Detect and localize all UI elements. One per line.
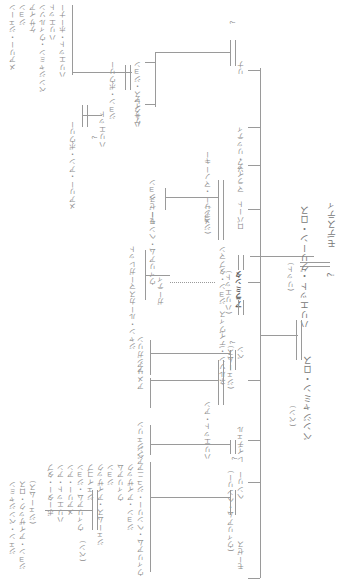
lower-name-7: ウィリアム・ジョン bbox=[78, 463, 85, 531]
linah-child-3: ジョン・ボウリー bbox=[110, 60, 117, 120]
rachel-child-2: ベン bbox=[138, 445, 145, 460]
bottom-note-4: (ベン) bbox=[80, 540, 87, 561]
ben-child-2: アメリア bbox=[138, 360, 145, 390]
linah-child-6: ? bbox=[92, 135, 99, 139]
rachel-spouse: ? bbox=[232, 456, 239, 460]
linah-child-5: メアリー・アン・ボウリー bbox=[70, 120, 77, 210]
adopted-label: ガーティ bbox=[158, 275, 165, 305]
child-rachel-label: レイチェル bbox=[238, 425, 245, 463]
lower-name-2: ジョン・アイザック bbox=[128, 463, 135, 531]
harriet-note-label: (リット) bbox=[288, 262, 295, 291]
lower-name-4: ジョン bbox=[108, 463, 115, 486]
family-tree: モデスティ ? ハリエット・グリーン・ロス (リット) ベンジャミン・ロス (ベ… bbox=[0, 0, 345, 581]
robert-child-3: ウィリアム・ヘンリー bbox=[150, 210, 157, 285]
grandchild-6: メアリー・ジェーン bbox=[10, 3, 17, 71]
bottom-note-1: (ジェームス) bbox=[30, 480, 37, 524]
lower-name-8: メアリー・アン bbox=[68, 463, 75, 516]
grandchild-1: ハリエット・ホーナー bbox=[60, 3, 67, 78]
child-linah-label: リナ bbox=[238, 60, 245, 75]
child-linah-spouse: ? bbox=[230, 20, 237, 24]
lower-name-10: ポーター・タブ bbox=[48, 463, 55, 516]
child-robert-label: ロバート bbox=[238, 200, 245, 230]
child-henry-label: ヘンリー bbox=[238, 470, 245, 500]
harriet-green-ross-label: ハリエット・グリーン・ロス bbox=[300, 205, 309, 329]
child-soph-label: ソフ bbox=[238, 158, 245, 173]
grandchild-5: ジョン bbox=[20, 3, 27, 26]
adopted-child-1: マーガレット bbox=[130, 245, 137, 290]
adopted-child-2: ジャン・ルーカス bbox=[130, 290, 137, 350]
children-spine bbox=[260, 68, 261, 578]
henry-spouse: ハリエット・アン bbox=[205, 400, 212, 460]
linah-child-2: ケサイア bbox=[135, 95, 142, 125]
lower-name-3: ウィリアム bbox=[118, 463, 125, 501]
araminta-spouse-1: ジョン・タブマン bbox=[220, 245, 227, 305]
grandchild-2: ハリエット bbox=[50, 3, 57, 41]
bottom-note-2: ジョン・アイザック・ロス bbox=[20, 480, 27, 570]
grandchild-4: ケサイア bbox=[30, 3, 37, 33]
lower-name-5: ジェームス・アイザック bbox=[98, 463, 105, 546]
robert-note: (ジョン) bbox=[205, 205, 212, 234]
bottom-note-3: ジェン・ベンジャミン bbox=[10, 480, 17, 555]
root-mother-label: ? bbox=[327, 272, 336, 277]
araminta-note: (ハリエット) bbox=[226, 270, 233, 314]
root-father-label: モデスティ bbox=[327, 200, 336, 248]
child-moses-label: モーゼス bbox=[238, 540, 245, 570]
ben-spouse: ? bbox=[230, 340, 237, 344]
parents-marriage-line bbox=[296, 320, 302, 360]
ben-ross-label: ベンジャミン・ロス bbox=[303, 355, 312, 441]
ben-note-label: (ベン) bbox=[290, 405, 297, 426]
lower-name-9: ハリエット・アン bbox=[58, 463, 65, 523]
lower-name-1: ウィリアム・ヘンリー・ジュニア bbox=[138, 463, 145, 576]
grandchild-3: ベンジャミン・ウィルソン bbox=[40, 3, 47, 93]
child-ben-label: ベン bbox=[238, 345, 245, 360]
